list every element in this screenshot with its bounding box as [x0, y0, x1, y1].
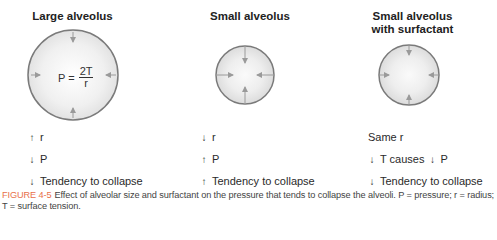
effect-text: T causes — [380, 153, 424, 165]
small-alveolus-surfactant-circle — [379, 45, 439, 105]
arrow-up-icon: ↑ — [200, 176, 208, 187]
effect-text: P — [440, 153, 447, 165]
caption-text: Effect of alveolar size and surfactant o… — [2, 190, 494, 211]
arrow-down-icon: ↓ — [368, 154, 376, 165]
effect-row: Same r — [368, 131, 403, 143]
effect-text: r — [40, 131, 44, 143]
effect-row: ↓ T causes ↓ P — [368, 153, 448, 165]
effect-row: ↑ P — [200, 153, 219, 165]
small-alveolus-circle — [216, 46, 274, 104]
effect-row: ↓ P — [28, 153, 47, 165]
effect-text: Tendency to collapse — [212, 175, 315, 187]
effect-row: ↓ Tendency to collapse — [28, 175, 143, 187]
figure-caption: FIGURE 4-5Effect of alveolar size and su… — [2, 190, 496, 212]
effect-text: P — [212, 153, 219, 165]
arrow-down-icon: ↓ — [200, 132, 208, 143]
effect-text: Tendency to collapse — [380, 175, 483, 187]
formula-denominator: r — [84, 78, 88, 89]
arrow-down-icon: ↓ — [428, 154, 436, 165]
effect-row: ↓ Tendency to collapse — [368, 175, 483, 187]
arrow-up-icon: ↑ — [28, 132, 36, 143]
figure-label: FIGURE 4-5 — [2, 190, 52, 200]
effect-text: Same r — [368, 131, 403, 143]
arrow-up-icon: ↑ — [200, 154, 208, 165]
arrow-down-icon: ↓ — [28, 176, 36, 187]
effect-text: Tendency to collapse — [40, 175, 143, 187]
effect-text: r — [212, 131, 216, 143]
effect-row: ↓ r — [200, 131, 216, 143]
arrow-down-icon: ↓ — [368, 176, 376, 187]
formula-lhs: P = — [58, 72, 75, 84]
arrow-down-icon: ↓ — [28, 154, 36, 165]
formula-fraction: 2T r — [79, 66, 94, 89]
effect-row: ↑ Tendency to collapse — [200, 175, 315, 187]
effect-row: ↑ r — [28, 131, 44, 143]
effect-text: P — [40, 153, 47, 165]
laplace-formula: P = 2T r — [58, 66, 93, 89]
